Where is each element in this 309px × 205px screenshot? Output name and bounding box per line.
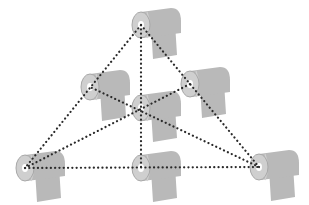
roll-center — [132, 91, 181, 142]
rolls-layer — [16, 8, 299, 202]
roll-bottom-mid — [132, 151, 181, 202]
roll-top — [132, 8, 181, 59]
roll-bottom-right — [250, 150, 299, 201]
triangle-diagram — [0, 0, 309, 205]
roll-bottom-left — [16, 151, 65, 202]
roll-right-mid — [181, 67, 230, 118]
diagram-canvas — [0, 0, 309, 205]
roll-left-mid — [81, 70, 130, 121]
